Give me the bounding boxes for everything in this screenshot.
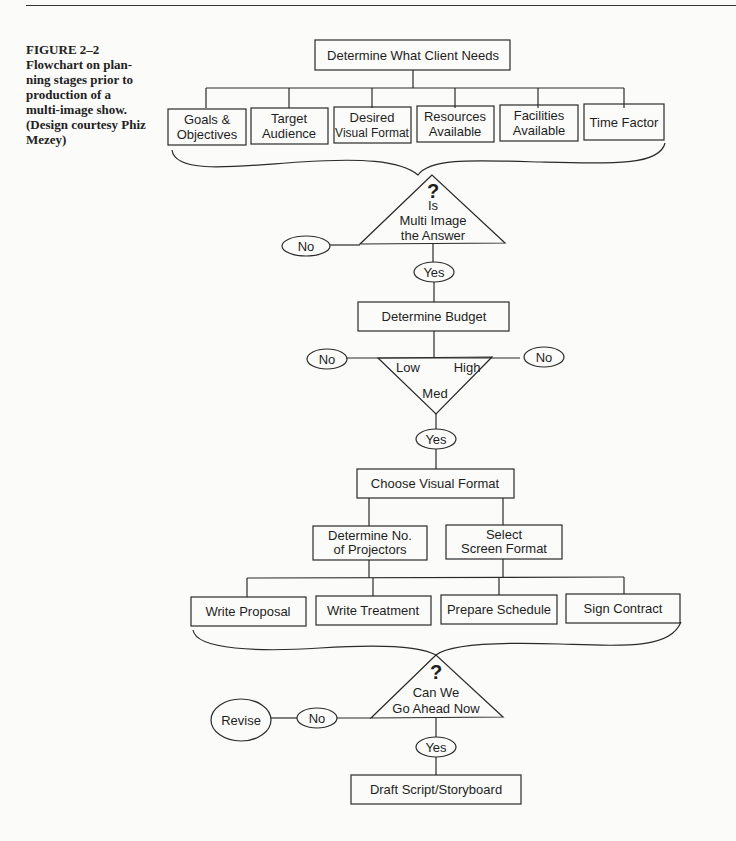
label-no: No: [298, 239, 315, 254]
label-decision: Multi Image: [399, 213, 466, 228]
label-need: Goals &: [184, 112, 231, 127]
label-low: Low: [396, 360, 420, 375]
label-no: No: [536, 350, 553, 365]
label-revise: Revise: [221, 713, 261, 728]
label-decision: Is: [428, 198, 439, 213]
label-decision: Go Ahead Now: [392, 701, 480, 716]
label-budget: Determine Budget: [382, 309, 487, 324]
label-task: Prepare Schedule: [447, 602, 551, 617]
label-task: Write Proposal: [205, 604, 290, 619]
label-need: Available: [513, 123, 566, 138]
label-task: Sign Contract: [584, 601, 663, 616]
label-yes: Yes: [423, 265, 445, 280]
label-projectors: Determine No.: [328, 528, 412, 543]
label-need: Time Factor: [590, 115, 660, 130]
label-need: Desired: [350, 110, 395, 125]
label-need: Visual Format: [335, 126, 409, 140]
label-screen-format: Select: [486, 527, 523, 542]
label-need: Audience: [262, 126, 316, 141]
flowchart: Determine What Client Needs Goals & Obje…: [0, 0, 736, 841]
grouping-brace: [172, 143, 665, 175]
label-need: Facilities: [514, 108, 565, 123]
label-need: Resources: [424, 109, 487, 124]
question-mark-icon: ?: [430, 661, 442, 683]
label-yes: Yes: [425, 432, 447, 447]
label-high: High: [454, 360, 481, 375]
label-decision: Can We: [413, 685, 460, 700]
label-need: Available: [429, 124, 482, 139]
label-projectors: of Projectors: [334, 542, 407, 557]
label-need: Objectives: [177, 127, 238, 142]
label-decision: the Answer: [401, 228, 466, 243]
label-no: No: [309, 711, 326, 726]
label-yes: Yes: [425, 740, 447, 755]
label-choose-format: Choose Visual Format: [371, 476, 500, 491]
grouping-brace: [193, 622, 681, 655]
label-task: Write Treatment: [327, 603, 420, 618]
label-no: No: [319, 352, 336, 367]
label-determine-needs: Determine What Client Needs: [327, 48, 499, 63]
label-need: Target: [271, 111, 308, 126]
label-screen-format: Screen Format: [461, 541, 547, 556]
label-med: Med: [422, 386, 447, 401]
label-draft-script: Draft Script/Storyboard: [370, 782, 502, 797]
